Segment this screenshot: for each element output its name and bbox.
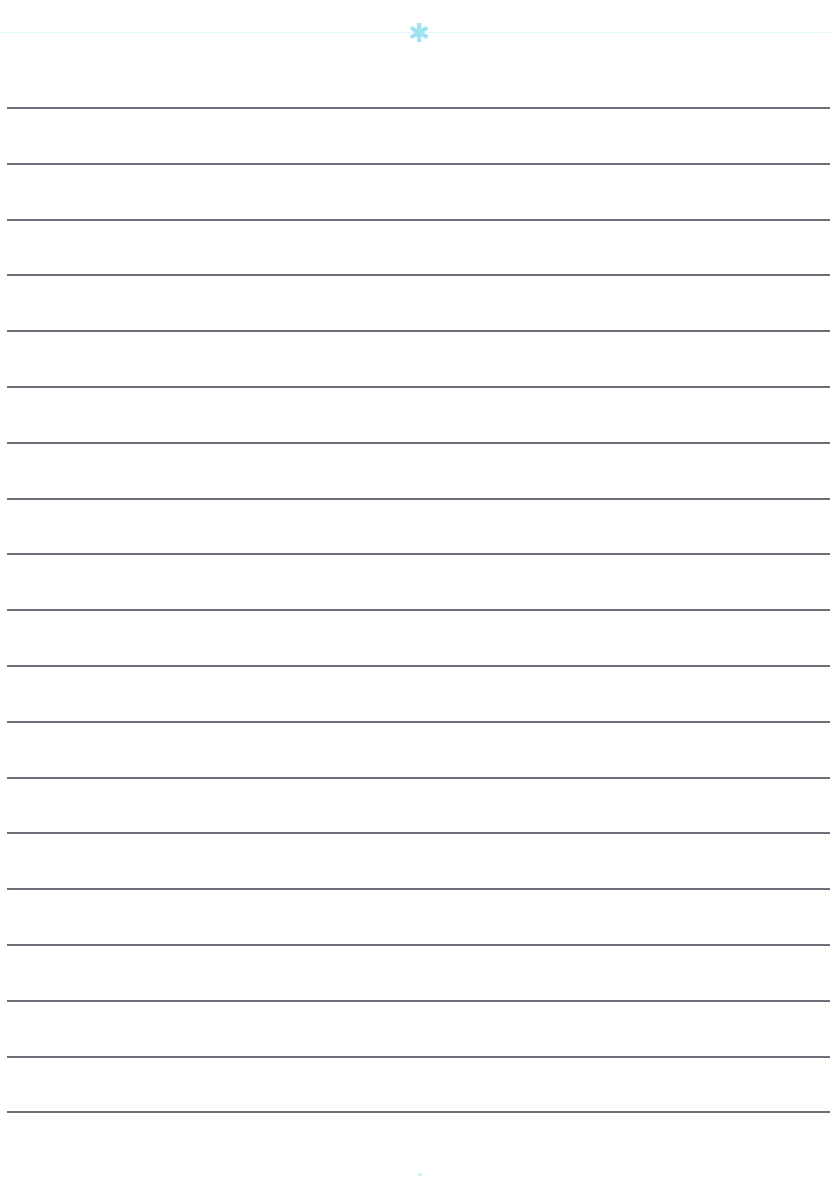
ruled-line bbox=[7, 944, 830, 946]
ruled-line bbox=[7, 219, 830, 221]
ruled-line bbox=[7, 442, 830, 444]
ruled-line bbox=[7, 498, 830, 500]
ruled-line bbox=[7, 274, 830, 276]
footer-dot bbox=[418, 1173, 422, 1176]
ruled-line bbox=[7, 1056, 830, 1058]
ruled-line bbox=[7, 777, 830, 779]
ruled-line bbox=[7, 107, 830, 109]
ruled-line bbox=[7, 330, 830, 332]
ruled-line bbox=[7, 1111, 830, 1113]
ruled-line bbox=[7, 163, 830, 165]
ruled-line bbox=[7, 721, 830, 723]
asterisk-ornament-icon: ✱ bbox=[408, 20, 430, 46]
ruled-line bbox=[7, 553, 830, 555]
ruled-line bbox=[7, 386, 830, 388]
ruled-line bbox=[7, 1000, 830, 1002]
ruled-line bbox=[7, 609, 830, 611]
ruled-line bbox=[7, 832, 830, 834]
ruled-line bbox=[7, 665, 830, 667]
ruled-line bbox=[7, 888, 830, 890]
